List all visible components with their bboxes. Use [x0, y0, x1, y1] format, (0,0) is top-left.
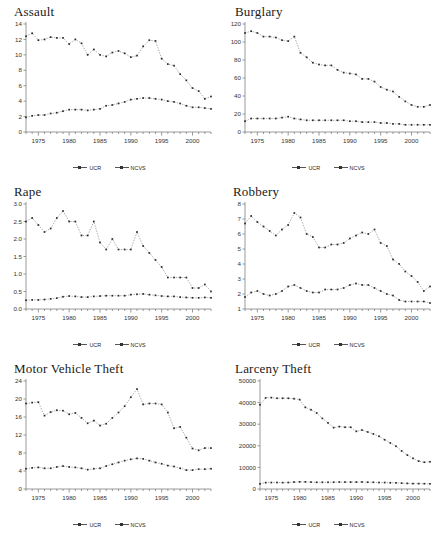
legend-item-ncvs: NCVS	[334, 521, 365, 528]
svg-text:2: 2	[238, 290, 242, 297]
svg-text:1980: 1980	[62, 137, 76, 144]
chart-panel-burglary: Burglary 0204060801001201975198019851990…	[219, 0, 438, 180]
legend-swatch-ucr-icon	[73, 343, 87, 347]
legend-item-ucr: UCR	[292, 164, 320, 171]
svg-text:10000: 10000	[239, 464, 257, 471]
plot-area-motor-vehicle-theft: 04812162024197519801985199019952000	[0, 375, 219, 513]
svg-text:1975: 1975	[250, 314, 264, 321]
svg-text:1985: 1985	[312, 314, 326, 321]
svg-text:1990: 1990	[343, 137, 357, 144]
svg-text:1.0: 1.0	[13, 270, 22, 277]
svg-text:8: 8	[19, 449, 23, 456]
legend-assault: UCR NCVS	[0, 164, 219, 171]
legend-label-ucr: UCR	[89, 165, 101, 171]
svg-text:1980: 1980	[293, 494, 307, 501]
svg-text:2: 2	[19, 113, 23, 120]
plot-area-assault: 02468101214197519801985199019952000	[0, 18, 219, 156]
legend-swatch-ucr-icon	[73, 166, 87, 170]
svg-text:3: 3	[238, 275, 242, 282]
legend-swatch-ucr-icon	[292, 343, 306, 347]
svg-text:60: 60	[234, 74, 241, 81]
svg-text:120: 120	[231, 20, 242, 27]
legend-item-ncvs: NCVS	[115, 521, 146, 528]
svg-text:0.0: 0.0	[13, 305, 22, 312]
legend-label-ucr: UCR	[308, 522, 320, 528]
legend-label-ucr: UCR	[89, 522, 101, 528]
svg-text:4: 4	[19, 467, 23, 474]
legend-item-ncvs: NCVS	[115, 164, 146, 171]
svg-text:1995: 1995	[374, 314, 388, 321]
svg-text:40000: 40000	[239, 399, 257, 406]
legend-burglary: UCR NCVS	[219, 164, 438, 171]
svg-text:2000: 2000	[405, 137, 419, 144]
svg-text:0: 0	[253, 485, 257, 492]
svg-text:1990: 1990	[124, 314, 138, 321]
svg-text:8: 8	[19, 66, 23, 73]
svg-text:1995: 1995	[378, 494, 392, 501]
svg-text:1975: 1975	[31, 494, 45, 501]
svg-text:0.5: 0.5	[13, 288, 22, 295]
legend-swatch-ncvs-icon	[334, 166, 348, 170]
svg-text:1975: 1975	[264, 494, 278, 501]
svg-text:12: 12	[15, 36, 22, 43]
svg-text:20: 20	[15, 395, 22, 402]
legend-item-ucr: UCR	[73, 341, 101, 348]
legend-larceny-theft: UCR NCVS	[219, 521, 438, 528]
svg-text:0: 0	[238, 128, 242, 135]
legend-swatch-ucr-icon	[73, 523, 87, 527]
svg-text:2000: 2000	[405, 314, 419, 321]
legend-swatch-ncvs-icon	[115, 343, 129, 347]
chart-panel-motor-vehicle-theft: Motor Vehicle Theft 04812162024197519801…	[0, 357, 219, 537]
svg-text:1975: 1975	[31, 314, 45, 321]
legend-item-ucr: UCR	[73, 164, 101, 171]
svg-text:80: 80	[234, 56, 241, 63]
svg-text:16: 16	[15, 413, 22, 420]
legend-item-ucr: UCR	[292, 521, 320, 528]
legend-item-ncvs: NCVS	[115, 341, 146, 348]
svg-text:1985: 1985	[321, 494, 335, 501]
legend-swatch-ucr-icon	[292, 166, 306, 170]
svg-text:8: 8	[238, 200, 242, 207]
legend-swatch-ncvs-icon	[334, 523, 348, 527]
svg-text:12: 12	[15, 431, 22, 438]
svg-text:1990: 1990	[349, 494, 363, 501]
plot-area-rape: 0.00.51.01.52.02.53.01975198019851990199…	[0, 198, 219, 333]
legend-swatch-ncvs-icon	[115, 166, 129, 170]
svg-text:20000: 20000	[239, 442, 257, 449]
svg-text:24: 24	[15, 377, 22, 384]
legend-item-ucr: UCR	[73, 521, 101, 528]
svg-text:5: 5	[238, 245, 242, 252]
svg-text:1985: 1985	[93, 137, 107, 144]
legend-label-ncvs: NCVS	[131, 165, 146, 171]
svg-text:2000: 2000	[406, 494, 420, 501]
svg-text:14: 14	[15, 20, 22, 27]
svg-text:1985: 1985	[93, 314, 107, 321]
svg-text:1990: 1990	[343, 314, 357, 321]
svg-text:1995: 1995	[374, 137, 388, 144]
legend-label-ncvs: NCVS	[350, 522, 365, 528]
svg-text:4: 4	[238, 260, 242, 267]
legend-item-ncvs: NCVS	[334, 164, 365, 171]
svg-text:1: 1	[238, 305, 242, 312]
svg-text:1975: 1975	[31, 137, 45, 144]
svg-text:1985: 1985	[93, 494, 107, 501]
svg-text:1985: 1985	[312, 137, 326, 144]
legend-label-ucr: UCR	[308, 342, 320, 348]
svg-text:0: 0	[19, 128, 23, 135]
legend-item-ucr: UCR	[292, 341, 320, 348]
svg-text:1995: 1995	[155, 137, 169, 144]
svg-text:100: 100	[231, 38, 242, 45]
legend-label-ucr: UCR	[89, 342, 101, 348]
svg-text:3.0: 3.0	[13, 200, 22, 207]
svg-text:2.5: 2.5	[13, 218, 22, 225]
legend-rape: UCR NCVS	[0, 341, 219, 348]
svg-text:20: 20	[234, 110, 241, 117]
svg-text:1990: 1990	[124, 137, 138, 144]
svg-text:6: 6	[238, 230, 242, 237]
legend-swatch-ncvs-icon	[334, 343, 348, 347]
svg-text:1.5: 1.5	[13, 253, 22, 260]
svg-text:30000: 30000	[239, 420, 257, 427]
svg-text:1995: 1995	[155, 314, 169, 321]
svg-text:6: 6	[19, 82, 23, 89]
svg-text:10: 10	[15, 51, 22, 58]
